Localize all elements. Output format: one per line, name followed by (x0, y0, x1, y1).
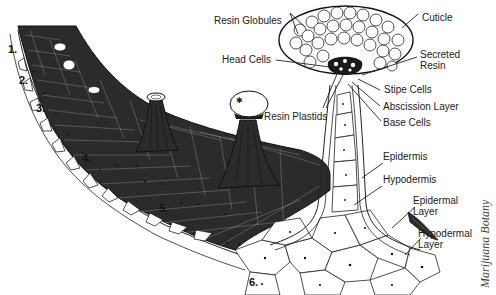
leaf-tissue-band (18, 26, 330, 250)
layer-number-4: 4. (82, 152, 91, 164)
label-resin-plastids: Resin Plastids (264, 111, 327, 122)
layer-number-3: 3. (36, 102, 45, 114)
air-pocket (63, 60, 75, 70)
label-epidermal-layer-1: Epidermal (413, 195, 458, 206)
head-cells-cluster (328, 57, 363, 75)
label-secreted-resin-1: Secreted (420, 49, 460, 60)
label-resin-globules: Resin Globules (214, 15, 282, 26)
layer-number-6: 6. (249, 276, 258, 288)
label-hypodermal-layer-2: Layer (418, 239, 444, 250)
layer-number-2: 2. (19, 74, 28, 86)
air-pocket (88, 87, 100, 94)
label-hypodermis: Hypodermis (383, 174, 436, 185)
label-epidermal-layer-2: Layer (413, 206, 439, 217)
label-secreted-resin-2: Resin (420, 60, 446, 71)
credit-text: Marijuana Botany (478, 199, 492, 289)
label-hypodermal-layer-1: Hypodermal (418, 228, 472, 239)
layer-number-5: 5. (159, 202, 168, 214)
label-stipe-cells: Stipe Cells (384, 84, 432, 95)
label-base-cells: Base Cells (383, 117, 431, 128)
layer-number-1: 1. (8, 43, 17, 55)
label-abscission-layer: Abscission Layer (383, 101, 459, 112)
plastid-glyph: ✱ (236, 96, 243, 105)
label-epidermis: Epidermis (383, 151, 427, 162)
air-pocket (54, 43, 66, 51)
label-cuticle: Cuticle (422, 12, 453, 23)
trichome-diagram: ✱ (0, 0, 496, 295)
label-head-cells: Head Cells (222, 54, 271, 65)
